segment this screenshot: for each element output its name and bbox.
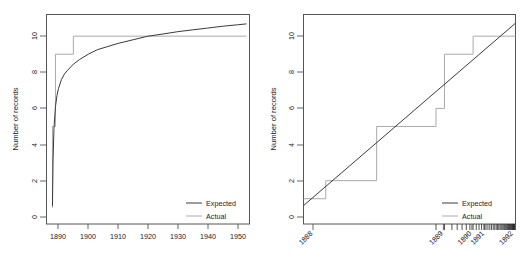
x-tick-label: 1888 xyxy=(297,229,315,247)
x-axis-right xyxy=(313,224,513,230)
x-tick-labels-right: 1888 1889 1890 1891 1892 xyxy=(297,229,515,247)
y-axis-right xyxy=(297,36,303,217)
legend-left: Expected Actual xyxy=(186,199,236,221)
x-tick-label: 1950 xyxy=(230,232,246,241)
x-tick-label: 1920 xyxy=(140,232,156,241)
y-tick-label: 0 xyxy=(30,215,39,219)
y-tick-labels-right: 10 8 6 4 2 0 xyxy=(287,32,296,219)
series-expected-right xyxy=(304,23,516,205)
y-axis-left xyxy=(40,36,46,217)
y-tick-label: 0 xyxy=(287,215,296,219)
chart-panel-left: 10 8 6 4 2 0 Number of records 1890 xyxy=(0,0,264,259)
y-tick-labels-left: 10 8 6 4 2 0 xyxy=(30,32,39,219)
y-tick-label: 6 xyxy=(287,106,296,110)
y-tick-label: 10 xyxy=(287,32,296,40)
series-expected-left xyxy=(52,24,246,206)
legend-label-expected: Expected xyxy=(462,199,492,208)
x-tick-label: 1889 xyxy=(427,229,445,247)
y-axis-title-right: Number of records xyxy=(269,87,278,150)
y-tick-label: 6 xyxy=(30,106,39,110)
x-tick-label: 1910 xyxy=(110,232,126,241)
plot-box-left xyxy=(47,15,250,225)
x-tick-labels-left: 1890 1900 1910 1920 1930 1940 1950 xyxy=(50,232,246,241)
x-tick-label: 1891 xyxy=(468,229,486,247)
legend-label-actual: Actual xyxy=(462,212,482,221)
x-tick-label: 1940 xyxy=(200,232,216,241)
y-tick-label: 2 xyxy=(287,179,296,183)
x-axis-left xyxy=(58,224,238,229)
x-tick-label: 1930 xyxy=(170,232,186,241)
y-tick-label: 8 xyxy=(30,70,39,74)
y-tick-label: 4 xyxy=(287,143,296,147)
x-tick-label: 1892 xyxy=(497,229,515,247)
legend-right: Expected Actual xyxy=(442,199,492,221)
y-axis-title-left: Number of records xyxy=(11,87,20,150)
rug-marks-right xyxy=(436,224,515,230)
y-tick-label: 8 xyxy=(287,70,296,74)
series-actual-left xyxy=(52,36,246,208)
x-tick-label: 1900 xyxy=(80,232,96,241)
x-tick-label: 1890 xyxy=(50,232,66,241)
chart-panel-right: 10 8 6 4 2 0 Number of records 1888 1889… xyxy=(264,0,528,259)
legend-label-expected: Expected xyxy=(206,199,236,208)
series-actual-right xyxy=(304,36,516,199)
legend-label-actual: Actual xyxy=(206,212,226,221)
records-figure: 10 8 6 4 2 0 Number of records 1890 xyxy=(0,0,528,259)
y-tick-label: 10 xyxy=(30,32,39,40)
y-tick-label: 4 xyxy=(30,143,39,147)
y-tick-label: 2 xyxy=(30,179,39,183)
plot-box-right xyxy=(304,15,516,225)
